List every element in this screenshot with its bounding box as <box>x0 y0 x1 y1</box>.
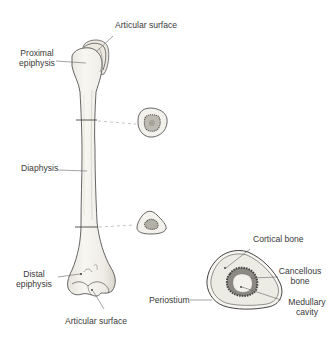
label-articular-surface-top: Articular surface <box>115 20 177 30</box>
label-diaphysis: Diaphysis <box>21 163 58 173</box>
enlarged-cross-section <box>207 250 282 309</box>
upper-shaft-cross-section <box>138 108 167 137</box>
bone-anatomy-diagram: Articular surface Proximal epiphysis Dia… <box>0 0 336 350</box>
upper-section-connector <box>98 121 136 124</box>
lower-shaft-cross-section <box>137 211 166 234</box>
humerus-bone <box>68 40 116 296</box>
label-cancellous-bone: Cancellous bone <box>277 266 323 286</box>
label-articular-surface-bottom: Articular surface <box>65 316 127 326</box>
label-cortical-bone: Cortical bone <box>253 234 304 244</box>
label-distal-epiphysis: Distal epiphysis <box>12 269 56 289</box>
lower-section-connector <box>99 225 135 227</box>
label-periosteum: Periostium <box>149 295 190 305</box>
label-medullary-cavity: Medullary cavity <box>284 297 330 317</box>
label-proximal-epiphysis: Proximal epiphysis <box>14 48 60 68</box>
